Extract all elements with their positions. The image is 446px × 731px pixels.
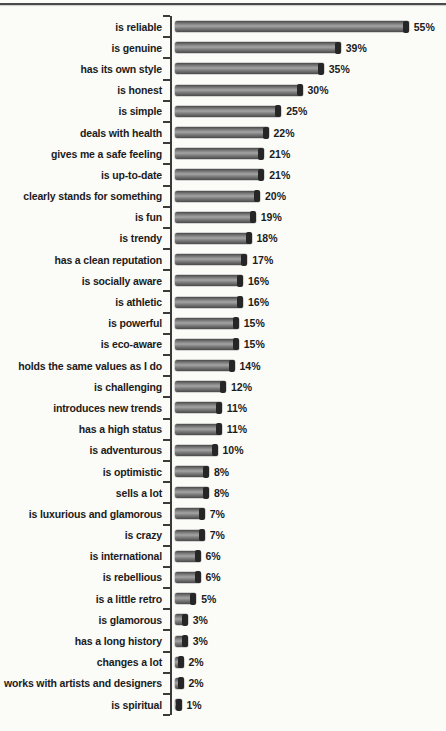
chart-row: is adventurous 10% bbox=[0, 440, 446, 461]
value-label: 7% bbox=[210, 508, 225, 520]
chart-row: changes a lot 2% bbox=[0, 652, 446, 673]
value-label: 15% bbox=[244, 338, 265, 350]
bar bbox=[175, 339, 239, 350]
category-label: is honest bbox=[0, 84, 170, 96]
bar bbox=[175, 678, 184, 689]
value-label: 30% bbox=[308, 84, 329, 96]
bar-cell: 15% bbox=[170, 334, 446, 355]
chart-row: deals with health 22% bbox=[0, 122, 446, 143]
bar-chart: is reliable 55% is genuine 39% has its o… bbox=[0, 16, 446, 715]
bar-end-cap bbox=[220, 381, 226, 393]
bar-cell: 22% bbox=[170, 122, 446, 143]
value-label: 8% bbox=[214, 487, 229, 499]
value-label: 7% bbox=[210, 529, 225, 541]
chart-row: is international 6% bbox=[0, 546, 446, 567]
value-label: 5% bbox=[201, 593, 216, 605]
bar bbox=[175, 21, 409, 32]
category-label: is optimistic bbox=[0, 466, 170, 478]
bar-end-cap bbox=[275, 105, 281, 117]
bar-end-cap bbox=[195, 571, 201, 583]
chart-row: is socially aware 16% bbox=[0, 270, 446, 291]
bar-cell: 10% bbox=[170, 440, 446, 461]
bar bbox=[175, 508, 205, 519]
chart-row: is up-to-date 21% bbox=[0, 164, 446, 185]
bar-end-cap bbox=[233, 317, 239, 329]
bar bbox=[175, 657, 184, 668]
bar-end-cap bbox=[212, 444, 218, 456]
value-label: 2% bbox=[189, 677, 204, 689]
bar bbox=[175, 148, 264, 159]
bar-cell: 7% bbox=[170, 503, 446, 524]
chart-row: has a long history 3% bbox=[0, 630, 446, 651]
bar-cell: 17% bbox=[170, 249, 446, 270]
bar bbox=[175, 424, 222, 435]
category-label: sells a lot bbox=[0, 487, 170, 499]
bar bbox=[175, 63, 324, 74]
bar-end-cap bbox=[297, 84, 303, 96]
bar-cell: 12% bbox=[170, 376, 446, 397]
bar-end-cap bbox=[203, 487, 209, 499]
value-label: 18% bbox=[257, 232, 278, 244]
bar bbox=[175, 614, 188, 625]
category-label: is trendy bbox=[0, 232, 170, 244]
chart-row: is powerful 15% bbox=[0, 313, 446, 334]
chart-row: gives me a safe feeling 21% bbox=[0, 143, 446, 164]
bar-cell: 2% bbox=[170, 673, 446, 694]
bar bbox=[175, 572, 201, 583]
bar bbox=[175, 593, 196, 604]
chart-row: is athletic 16% bbox=[0, 291, 446, 312]
bar-cell: 3% bbox=[170, 609, 446, 630]
bar-end-cap bbox=[335, 42, 341, 54]
category-label: is fun bbox=[0, 211, 170, 223]
category-label: has its own style bbox=[0, 63, 170, 75]
bar-end-cap bbox=[403, 21, 409, 33]
chart-row: is rebellious 6% bbox=[0, 567, 446, 588]
category-label: changes a lot bbox=[0, 656, 170, 668]
chart-row: clearly stands for something 20% bbox=[0, 186, 446, 207]
bar-cell: 16% bbox=[170, 270, 446, 291]
category-label: deals with health bbox=[0, 127, 170, 139]
bar-end-cap bbox=[199, 529, 205, 541]
bar-end-cap bbox=[199, 508, 205, 520]
chart-row: is honest 30% bbox=[0, 80, 446, 101]
value-label: 16% bbox=[248, 275, 269, 287]
value-label: 19% bbox=[261, 211, 282, 223]
bar-end-cap bbox=[258, 148, 264, 160]
category-label: is crazy bbox=[0, 529, 170, 541]
bar-cell: 6% bbox=[170, 546, 446, 567]
chart-row: works with artists and designers 2% bbox=[0, 673, 446, 694]
bar-cell: 8% bbox=[170, 461, 446, 482]
category-label: is socially aware bbox=[0, 275, 170, 287]
bar bbox=[175, 699, 182, 710]
bar bbox=[175, 360, 235, 371]
bar-cell: 55% bbox=[170, 16, 446, 37]
bar-end-cap bbox=[237, 275, 243, 287]
chart-row: is simple 25% bbox=[0, 101, 446, 122]
bar-end-cap bbox=[263, 127, 269, 139]
value-label: 35% bbox=[329, 63, 350, 75]
category-label: is eco-aware bbox=[0, 338, 170, 350]
bar bbox=[175, 254, 247, 265]
bar bbox=[175, 466, 209, 477]
bar-cell: 21% bbox=[170, 143, 446, 164]
category-label: has a long history bbox=[0, 635, 170, 647]
category-label: is a little retro bbox=[0, 593, 170, 605]
value-label: 6% bbox=[206, 550, 221, 562]
bar-end-cap bbox=[216, 402, 222, 414]
chart-row: is glamorous 3% bbox=[0, 609, 446, 630]
bar-end-cap bbox=[258, 169, 264, 181]
bar bbox=[175, 318, 239, 329]
bar bbox=[175, 636, 188, 647]
chart-row: is crazy 7% bbox=[0, 525, 446, 546]
bar-end-cap bbox=[237, 296, 243, 308]
chart-row: has a clean reputation 17% bbox=[0, 249, 446, 270]
category-label: clearly stands for something bbox=[0, 190, 170, 202]
category-label: works with artists and designers bbox=[0, 677, 170, 689]
category-label: is reliable bbox=[0, 21, 170, 33]
bar-end-cap bbox=[246, 232, 252, 244]
bar-cell: 18% bbox=[170, 228, 446, 249]
value-label: 15% bbox=[244, 317, 265, 329]
value-label: 22% bbox=[274, 127, 295, 139]
bar bbox=[175, 402, 222, 413]
bar-end-cap bbox=[176, 699, 182, 711]
